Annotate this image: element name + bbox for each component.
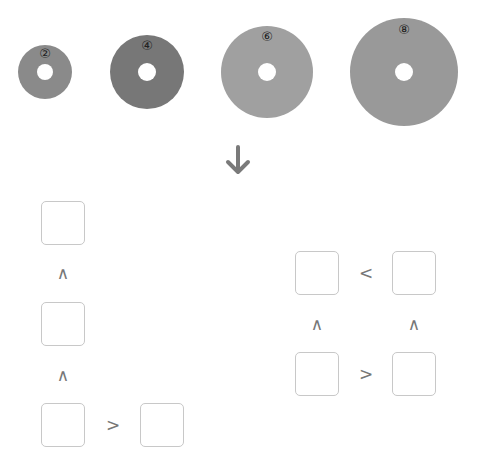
disc-label: ④ [141,39,153,52]
comparison-symbol: < [359,265,373,282]
disc-6: ⑥ [221,26,313,118]
answer-box[interactable] [41,403,85,447]
comparison-symbol: ∧ [57,367,69,384]
disc-hole [138,63,156,81]
disc-hole [395,63,413,81]
disc-2: ② [18,45,72,99]
answer-box[interactable] [140,403,184,447]
comparison-symbol: ∧ [408,316,420,333]
disc-8: ⑧ [350,18,458,126]
disc-label: ⑥ [261,30,273,43]
disc-label: ⑧ [398,23,410,36]
disc-4: ④ [110,35,184,109]
answer-box[interactable] [41,302,85,346]
answer-box[interactable] [41,201,85,245]
comparison-symbol: > [359,366,373,383]
answer-box[interactable] [295,251,339,295]
arrow-down-icon [225,145,251,175]
comparison-symbol: ∧ [311,316,323,333]
disc-hole [258,63,276,81]
answer-box[interactable] [392,352,436,396]
disc-label: ② [39,47,51,60]
disc-hole [37,64,53,80]
answer-box[interactable] [392,251,436,295]
answer-box[interactable] [295,352,339,396]
comparison-symbol: ∧ [57,265,69,282]
comparison-symbol: > [106,417,120,434]
